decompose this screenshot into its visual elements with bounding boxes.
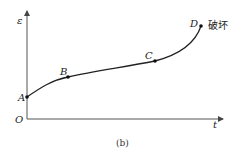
origin-label: O [15, 114, 23, 125]
creep-curve-diagram: ε t O A B C D 破坏 (b) [0, 0, 243, 157]
creep-curve [27, 26, 201, 97]
point-d-label: D [189, 18, 198, 29]
point-a-label: A [17, 92, 25, 103]
point-b-label: B [59, 66, 67, 77]
x-axis-label: t [213, 119, 218, 130]
failure-annotation: 破坏 [208, 19, 228, 31]
y-axis-label: ε [17, 15, 22, 26]
point-c [153, 59, 157, 63]
point-c-label: C [145, 50, 153, 61]
figure-caption: (b) [116, 138, 129, 148]
point-d [199, 24, 203, 28]
point-a [25, 95, 29, 99]
